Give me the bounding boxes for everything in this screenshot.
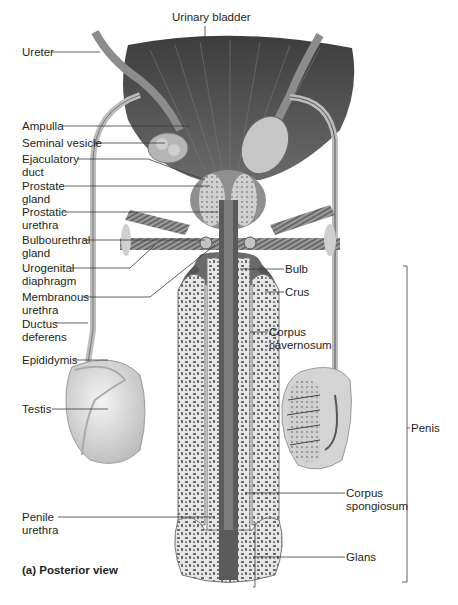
right-testis-shape [282, 368, 352, 470]
label-corpus-cavernosum: Corpus cavernosum [269, 326, 332, 351]
label-prostatic-urethra: Prostatic urethra [22, 206, 67, 231]
label-membranous-urethra: Membranous urethra [22, 291, 89, 316]
left-testis-shape [66, 360, 145, 463]
label-crus: Crus [285, 286, 309, 299]
label-ampulla: Ampulla [22, 120, 64, 133]
label-glans: Glans [346, 551, 376, 564]
label-penile-urethra: Penile urethra [22, 511, 58, 536]
label-epididymis: Epididymis [22, 354, 78, 367]
label-bulbourethral-gland: Bulbourethral gland [22, 234, 90, 259]
label-corpus-spongiosum: Corpus spongiosum [346, 487, 408, 512]
label-urogenital-diaphragm: Urogenital diaphragm [22, 262, 76, 287]
label-ureter: Ureter [22, 46, 54, 59]
label-ductus-deferens: Ductus deferens [22, 318, 67, 343]
panel-caption: (a) Posterior view [22, 564, 118, 576]
label-prostate-gland: Prostate gland [22, 180, 65, 205]
label-seminal-vesicle: Seminal vesicle [22, 137, 102, 150]
label-testis: Testis [22, 403, 51, 416]
label-ejaculatory-duct: Ejaculatory duct [22, 153, 79, 178]
label-bulb: Bulb [285, 263, 308, 276]
label-penis: Penis [411, 422, 440, 435]
label-urinary-bladder: Urinary bladder [172, 11, 251, 24]
